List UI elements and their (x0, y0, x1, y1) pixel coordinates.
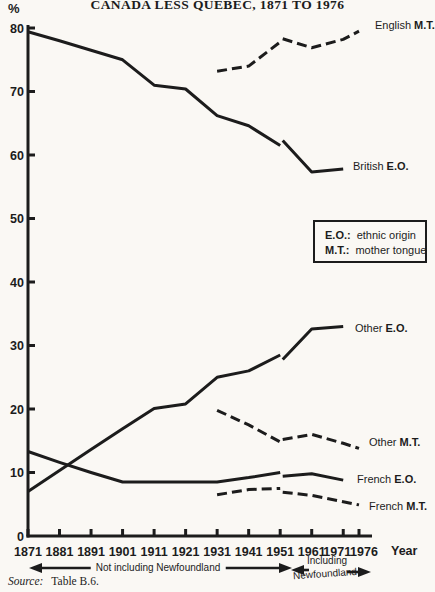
x-tick-label: 1911 (141, 545, 168, 559)
source-label: Source: (8, 575, 43, 587)
series-label-abbr: M.T. (400, 436, 421, 448)
source-value: Table B.6. (51, 575, 98, 587)
series-line-other-mt (217, 410, 280, 442)
series-label-name: French (369, 500, 403, 512)
series-line-french-mt (283, 492, 359, 505)
right-span-right-arrowhead-icon (358, 567, 371, 577)
legend-box: E.O.:ethnic origin M.T.:mother tongue (313, 220, 427, 263)
y-tick-label: 20 (10, 403, 24, 417)
y-tick-label: 10 (10, 466, 24, 480)
y-tick-label: 70 (10, 85, 24, 99)
series-line-other-eo (28, 355, 280, 492)
x-tick-label: 1881 (46, 545, 74, 559)
x-axis-title: Year (391, 544, 417, 558)
legend-abbr: M.T.: (325, 244, 349, 256)
source-note: Source:Table B.6. (8, 575, 99, 587)
chart-figure: % CANADA LESS QUEBEC, 1871 TO 1976 01020… (0, 0, 435, 592)
legend-row-eo: E.O.:ethnic origin (325, 228, 425, 243)
x-tick-label: 1951 (266, 545, 294, 559)
y-tick-label: 0 (17, 530, 24, 544)
not-including-newfoundland-label: Not including Newfoundland (91, 562, 226, 573)
left-span-arrowhead-right-icon (279, 563, 292, 573)
series-label-abbr: M.T. (406, 500, 427, 512)
y-tick-label: 50 (10, 212, 24, 226)
series-label-name: French (357, 473, 391, 485)
series-label-name: Other (355, 322, 383, 334)
series-label-name: English (375, 19, 411, 31)
series-line-british-eo (283, 140, 344, 172)
x-tick-label: 1976 (350, 545, 378, 559)
series-line-british-eo (28, 32, 280, 146)
x-tick-label: 1871 (14, 545, 42, 559)
series-label-british-eo: BritishE.O. (353, 161, 409, 172)
series-label-abbr: E.O. (387, 160, 409, 172)
x-tick-label: 1921 (172, 545, 200, 559)
series-label-french-mt: FrenchM.T. (369, 501, 427, 512)
series-label-abbr: M.T. (414, 19, 435, 31)
series-line-english-mt (217, 42, 280, 71)
y-tick-label: 60 (10, 149, 24, 163)
series-layer (28, 31, 359, 505)
y-tick-label: 30 (10, 339, 24, 353)
legend-row-mt: M.T.:mother tongue (325, 243, 425, 258)
series-line-french-mt (217, 488, 280, 494)
x-tick-label: 1931 (203, 545, 231, 559)
y-tick-label: 80 (10, 22, 24, 36)
series-line-english-mt (283, 31, 359, 48)
series-label-english-mt: EnglishM.T. (375, 20, 435, 31)
legend-definition: mother tongue (355, 244, 426, 256)
x-tick-label: 1901 (109, 545, 137, 559)
series-label-name: Other (369, 436, 397, 448)
series-line-other-mt (283, 434, 359, 448)
series-label-name: British (353, 160, 384, 172)
series-line-french-eo (283, 474, 344, 480)
series-label-french-eo: FrenchE.O. (357, 474, 416, 485)
x-tick-label: 1891 (77, 545, 105, 559)
left-span-arrowhead-left-icon (29, 563, 42, 573)
series-line-other-eo (283, 327, 344, 360)
series-label-other-eo: OtherE.O. (355, 323, 408, 334)
legend-definition: ethnic origin (357, 229, 416, 241)
including-newfoundland-label-line1: Including (307, 555, 347, 566)
series-label-abbr: E.O. (386, 322, 408, 334)
axes-layer: 0102030405060708018711881189119011911192… (10, 22, 378, 560)
y-tick-label: 40 (10, 276, 24, 290)
legend-abbr: E.O.: (325, 229, 351, 241)
series-label-other-mt: OtherM.T. (369, 437, 420, 448)
x-tick-label: 1941 (235, 545, 263, 559)
series-label-abbr: E.O. (394, 473, 416, 485)
